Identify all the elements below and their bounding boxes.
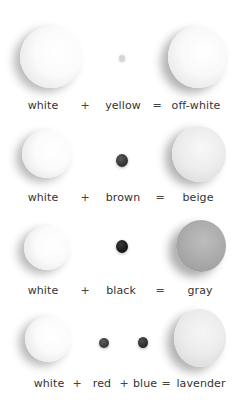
additive-label: black [106, 284, 136, 297]
gray-ball [176, 220, 226, 272]
white-ball [25, 316, 71, 362]
plus-sign: + [80, 191, 89, 204]
base-label: white [34, 377, 65, 390]
plus-sign: + [119, 377, 128, 390]
equals-sign: = [161, 377, 170, 390]
white-ball [22, 130, 72, 178]
base-label: white [28, 191, 59, 204]
lavender-ball [174, 309, 226, 367]
white-ball [20, 26, 82, 88]
brown-dot [116, 154, 128, 167]
equals-sign: = [155, 284, 164, 297]
blue-dot [138, 337, 148, 348]
plus-sign: + [80, 99, 89, 112]
yellow-dot [119, 55, 125, 62]
result-label: beige [182, 191, 213, 204]
plus-sign: + [72, 377, 81, 390]
additive-label: blue [133, 377, 157, 390]
result-label: off-white [172, 99, 221, 112]
result-label: lavender [176, 377, 225, 390]
off-white-ball [168, 26, 228, 88]
black-dot [116, 240, 128, 253]
white-ball [24, 226, 70, 270]
equals-sign: = [152, 99, 161, 112]
equals-sign: = [155, 191, 164, 204]
additive-label: red [93, 377, 111, 390]
additive-label: yellow [105, 99, 141, 112]
base-label: white [28, 284, 59, 297]
red-dot [99, 338, 109, 348]
plus-sign: + [80, 284, 89, 297]
additive-label: brown [106, 191, 140, 204]
result-label: gray [187, 284, 212, 297]
beige-ball [172, 126, 226, 182]
base-label: white [28, 99, 59, 112]
